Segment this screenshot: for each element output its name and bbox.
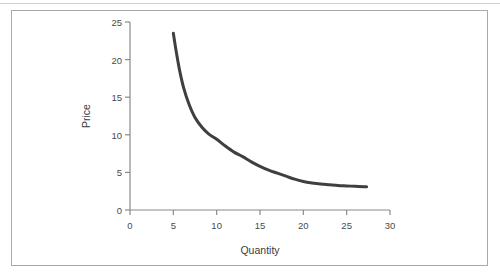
y-tick-label: 20 (96, 54, 122, 65)
x-tick-label: 5 (171, 220, 176, 231)
demand-curve-line (173, 33, 366, 186)
figure-container: 0510152025 051015202530 Price Quantity (0, 0, 500, 276)
x-tick-label: 15 (255, 220, 266, 231)
x-axis-ticks (130, 210, 390, 215)
x-tick-label: 25 (341, 220, 352, 231)
y-tick-label: 0 (96, 205, 122, 216)
y-tick-label: 15 (96, 92, 122, 103)
x-tick-label: 0 (127, 220, 132, 231)
y-axis-ticks (125, 22, 130, 210)
y-tick-label: 10 (96, 129, 122, 140)
x-tick-label: 30 (385, 220, 396, 231)
y-tick-label: 5 (96, 167, 122, 178)
axis-lines (130, 22, 390, 210)
x-tick-label: 20 (298, 220, 309, 231)
plot-area (0, 0, 500, 276)
x-tick-label: 10 (211, 220, 222, 231)
x-axis-title: Quantity (240, 244, 279, 256)
y-axis-title: Price (80, 104, 92, 128)
y-tick-label: 25 (96, 17, 122, 28)
